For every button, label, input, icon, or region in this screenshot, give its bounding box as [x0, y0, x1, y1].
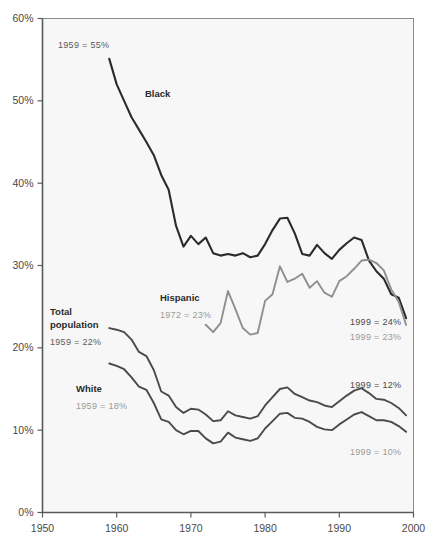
x-tick-label-1980: 1980	[253, 522, 277, 534]
y-tick-label-20%: 20%	[12, 341, 33, 353]
series-label-white: White	[76, 383, 102, 394]
annotation-white-end: 1999 = 10%	[350, 447, 401, 457]
annotation-black-start: 1959 = 55%	[58, 40, 109, 50]
annotation-white-start: 1959 = 18%	[76, 401, 127, 411]
y-tick-label-40%: 40%	[12, 177, 33, 189]
x-tick-label-1990: 1990	[328, 522, 352, 534]
y-tick-label-30%: 30%	[12, 259, 33, 271]
series-label-black: Black	[145, 88, 171, 99]
x-tick-label-1960: 1960	[105, 522, 129, 534]
y-tick-label-50%: 50%	[12, 94, 33, 106]
annotation-black-end: 1999 = 24%	[350, 317, 401, 327]
series-label-total-population-line1: Total	[50, 306, 72, 317]
y-tick-label-60%: 60%	[12, 12, 33, 24]
annotation-total-start: 1959 = 22%	[50, 337, 101, 347]
series-label-hispanic: Hispanic	[160, 292, 200, 303]
annotation-hispanic-start: 1972 = 23%	[160, 310, 211, 320]
y-tick-label-10%: 10%	[12, 424, 33, 436]
chart-figure: 0%10%20%30%40%50%60% 1950196019701980199…	[0, 0, 434, 559]
x-tick-label-2000: 2000	[402, 522, 426, 534]
annotation-hispanic-end: 1999 = 23%	[350, 332, 401, 342]
series-label-total-population-line2: population	[50, 319, 99, 330]
x-tick-label-1950: 1950	[31, 522, 55, 534]
y-tick-label-0%: 0%	[18, 506, 33, 518]
x-tick-label-1970: 1970	[179, 522, 203, 534]
poverty-rate-line-chart: 0%10%20%30%40%50%60% 1950196019701980199…	[0, 0, 434, 559]
annotation-total-end: 1999 = 12%	[350, 380, 401, 390]
